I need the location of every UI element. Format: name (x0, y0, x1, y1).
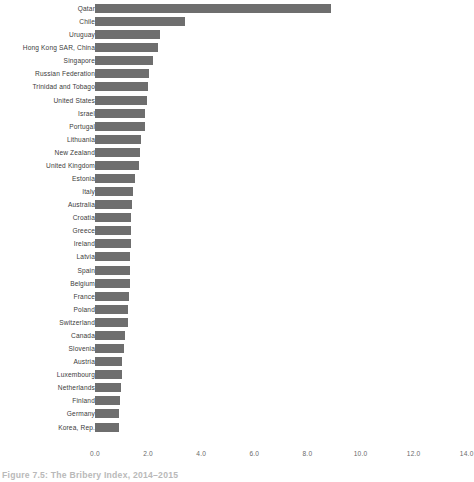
bar (95, 266, 130, 275)
bar-track (95, 43, 473, 52)
bar (95, 279, 130, 288)
bar-chart-plot-area: QatarChileUruguayHong Kong SAR, ChinaSin… (0, 2, 473, 448)
bar-track (95, 357, 473, 366)
bar-category-label: New Zealand (0, 146, 95, 159)
bar-category-label: Spain (0, 264, 95, 277)
bar-category-label: France (0, 290, 95, 303)
bar-row: United Kingdom (0, 159, 473, 172)
x-axis-tick-label: 2.0 (143, 450, 153, 457)
bar-category-label: Switzerland (0, 316, 95, 329)
bar (95, 239, 131, 248)
bar-row: Canada (0, 329, 473, 342)
bar-category-label: United States (0, 94, 95, 107)
bar (95, 69, 149, 78)
bar-row: Uruguay (0, 28, 473, 41)
bar-category-label: Uruguay (0, 28, 95, 41)
bar-track (95, 109, 473, 118)
bar (95, 423, 119, 432)
bar (95, 370, 122, 379)
bar (95, 318, 128, 327)
bar-category-label: Qatar (0, 2, 95, 15)
bar-row: Netherlands (0, 381, 473, 394)
bar (95, 409, 119, 418)
bar-track (95, 30, 473, 39)
bar-row: Chile (0, 15, 473, 28)
bar-row: Hong Kong SAR, China (0, 41, 473, 54)
bar-track (95, 161, 473, 170)
figure-caption: Figure 7.5: The Bribery Index, 2014–2015 (2, 470, 382, 480)
bar-row: Spain (0, 264, 473, 277)
bar (95, 30, 160, 39)
bar-row: New Zealand (0, 146, 473, 159)
bar-track (95, 331, 473, 340)
bar-row: Croatia (0, 211, 473, 224)
x-axis-tick-label: 14.0 (460, 450, 474, 457)
bar-track (95, 4, 473, 13)
bar (95, 43, 158, 52)
bar-row: Poland (0, 303, 473, 316)
bar-row: Israel (0, 107, 473, 120)
bar-category-label: Russian Federation (0, 67, 95, 80)
x-axis-tick-label: 6.0 (249, 450, 259, 457)
bar-category-label: Germany (0, 407, 95, 420)
bar (95, 135, 141, 144)
bar-track (95, 305, 473, 314)
bar-row: Switzerland (0, 316, 473, 329)
x-axis-tick-label: 10.0 (354, 450, 368, 457)
bar (95, 292, 129, 301)
x-axis-tick-label: 8.0 (303, 450, 313, 457)
x-axis-tick-label: 4.0 (196, 450, 206, 457)
bar (95, 161, 139, 170)
bar (95, 226, 131, 235)
bar (95, 344, 124, 353)
bar-row: Estonia (0, 172, 473, 185)
bar-track (95, 239, 473, 248)
bar (95, 4, 331, 13)
bar-track (95, 226, 473, 235)
bar-track (95, 174, 473, 183)
bar (95, 56, 153, 65)
bar (95, 82, 148, 91)
x-axis-tick-label: 12.0 (407, 450, 421, 457)
bar-row: Finland (0, 394, 473, 407)
bar-category-label: Israel (0, 107, 95, 120)
bar (95, 252, 130, 261)
bar-row: Italy (0, 185, 473, 198)
bar-category-label: Estonia (0, 172, 95, 185)
bar-row: Luxembourg (0, 368, 473, 381)
bar-track (95, 252, 473, 261)
bar-row: France (0, 290, 473, 303)
bar-category-label: Latvia (0, 250, 95, 263)
bar-track (95, 396, 473, 405)
bar-category-label: Australia (0, 198, 95, 211)
bar-track (95, 383, 473, 392)
bar-row: United States (0, 94, 473, 107)
bar-track (95, 135, 473, 144)
bar-category-label: Ireland (0, 237, 95, 250)
bar (95, 187, 133, 196)
bar-category-label: Austria (0, 355, 95, 368)
bar (95, 96, 147, 105)
bar (95, 200, 132, 209)
bar-row: Korea, Rep. (0, 421, 473, 434)
bar-category-label: Canada (0, 329, 95, 342)
bar-row: Lithuania (0, 133, 473, 146)
x-axis-tick-label: 0.0 (90, 450, 100, 457)
bar-category-label: Chile (0, 15, 95, 28)
bar-category-label: Luxembourg (0, 368, 95, 381)
bar-row: Australia (0, 198, 473, 211)
bar-track (95, 370, 473, 379)
bar-row: Singapore (0, 54, 473, 67)
bar-row: Greece (0, 224, 473, 237)
bar-track (95, 187, 473, 196)
bar-row: Ireland (0, 237, 473, 250)
bar-track (95, 318, 473, 327)
bar-category-label: Trinidad and Tobago (0, 80, 95, 93)
bar-category-label: Korea, Rep. (0, 421, 95, 434)
bar-category-label: Poland (0, 303, 95, 316)
bar-row: Portugal (0, 120, 473, 133)
bar-track (95, 82, 473, 91)
bar-row: Slovenia (0, 342, 473, 355)
bar (95, 109, 145, 118)
